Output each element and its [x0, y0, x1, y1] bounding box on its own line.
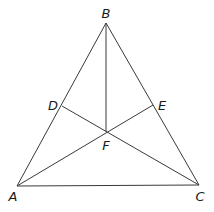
label-b: B — [102, 6, 111, 21]
segments — [17, 23, 199, 186]
label-f: F — [102, 138, 110, 153]
label-c: C — [195, 189, 205, 204]
label-a: A — [8, 189, 18, 204]
triangle-diagram: A B C D E F — [0, 0, 214, 212]
segment-ae — [17, 105, 153, 186]
segment-bc — [106, 23, 199, 185]
segment-ac — [17, 185, 199, 186]
label-e: E — [158, 98, 167, 113]
label-d: D — [48, 98, 58, 113]
segment-ab — [17, 23, 106, 186]
